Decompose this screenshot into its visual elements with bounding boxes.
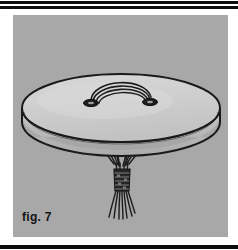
figure-panel: fig. 7 (13, 15, 228, 237)
tambourine-illustration (13, 15, 228, 237)
wrapped-binding (114, 169, 130, 191)
binding-body (114, 169, 130, 191)
figure-caption: fig. 7 (22, 210, 52, 224)
tassel-fringe (109, 191, 135, 219)
top-inner-rule (0, 6, 238, 9)
grommet-right-hole (147, 101, 153, 104)
bottom-rule (0, 245, 238, 249)
top-outer-rule (0, 1, 238, 4)
grommet-left-hole (88, 102, 94, 105)
figure-page: fig. 7 (0, 0, 238, 250)
